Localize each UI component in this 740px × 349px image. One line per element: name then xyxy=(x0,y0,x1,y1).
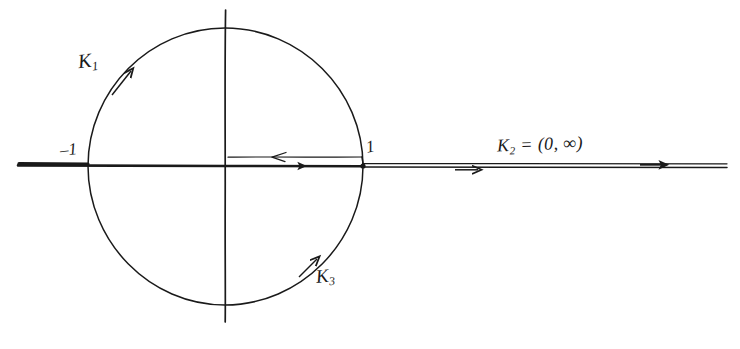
label-k3: K3 xyxy=(315,264,336,291)
contour-diagram-svg xyxy=(0,0,740,349)
horizontal-axis-group xyxy=(18,164,727,168)
label-k2-interval: = (0, ∞) xyxy=(515,133,583,155)
label-k1: K1 xyxy=(76,48,99,76)
label-k2-base: K xyxy=(497,135,510,155)
intersection-dot-one xyxy=(360,163,365,168)
vertical-axis xyxy=(225,10,226,322)
label-k2: K2 = (0, ∞) xyxy=(497,133,584,158)
diagram-canvas: K1 K3 K2 = (0, ∞) –1 1 xyxy=(0,0,740,349)
label-minus-one: –1 xyxy=(59,139,78,161)
label-k3-subscript: 3 xyxy=(328,275,335,289)
label-k3-base: K xyxy=(315,265,330,287)
segment-zero-one-upper xyxy=(228,153,363,167)
